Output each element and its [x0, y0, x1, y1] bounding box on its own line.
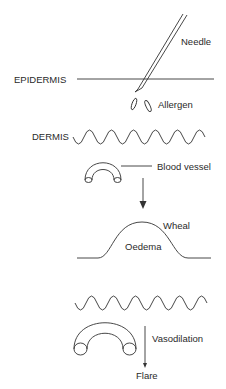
oedema-label: Oedema	[125, 242, 161, 252]
blood-vessel-small-icon	[85, 163, 121, 183]
dermis-label: DERMIS	[32, 132, 69, 142]
vasodilation-label: Vasodilation	[152, 334, 203, 344]
vasodilation-arrow-head-icon	[143, 363, 147, 368]
diagram-canvas	[0, 0, 226, 389]
allergen-particles-icon	[130, 98, 152, 113]
wheal-curve	[77, 222, 211, 258]
dermis-wave	[73, 130, 205, 144]
wheal-label: Wheal	[163, 221, 190, 231]
needle-icon	[135, 14, 187, 92]
flare-label: Flare	[136, 371, 158, 381]
blood-vessel-dilated-icon	[74, 323, 136, 355]
blood-vessel-label: Blood vessel	[157, 162, 211, 172]
needle-label: Needle	[181, 37, 211, 47]
epidermis-label: EPIDERMIS	[14, 75, 66, 85]
arrow-head-icon	[140, 201, 147, 209]
allergen-label: Allergen	[158, 100, 193, 110]
dermis-wave-lower	[75, 296, 207, 310]
